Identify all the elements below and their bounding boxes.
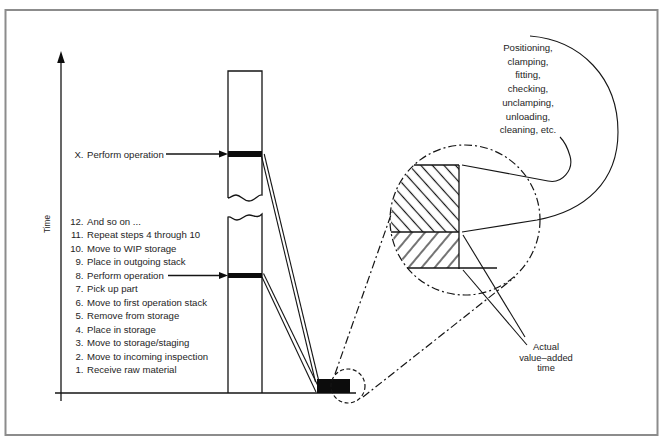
step-number: 11.	[71, 229, 84, 240]
step-label: Place in storage	[87, 324, 156, 335]
magnify-connector-upper	[335, 212, 392, 374]
value-added-line: Actual	[533, 341, 559, 352]
callout-line: checking,	[508, 83, 549, 94]
operation-x-number: X.	[74, 149, 83, 160]
value-added-label: Actual value–added time	[519, 341, 573, 373]
operation-x-arrowhead-icon	[219, 151, 228, 158]
step-label: Move to storage/staging	[87, 337, 189, 348]
value-added-leader-bottom	[463, 270, 527, 345]
step-list: 12. And so on ... 11. Repeat steps 4 thr…	[70, 216, 208, 376]
step-label: And so on ...	[87, 216, 141, 227]
step-label: Move to first operation stack	[87, 297, 207, 308]
step-number: 1.	[75, 364, 83, 375]
operation-x-band	[228, 151, 262, 157]
step-number: 6.	[75, 297, 83, 308]
callout-line: unclamping,	[502, 97, 554, 108]
step-label: Move to WIP storage	[87, 243, 176, 254]
step-label: Place in outgoing stack	[87, 256, 186, 267]
step-number: 5.	[75, 310, 83, 321]
hatch-value-added	[380, 232, 459, 268]
step-number: 10.	[70, 243, 83, 254]
operation-x-label: Perform operation	[87, 149, 164, 160]
value-added-block	[317, 379, 350, 393]
hatch-non-value-added	[380, 165, 459, 232]
step-label: Repeat steps 4 through 10	[87, 229, 200, 240]
step-number: 4.	[75, 324, 83, 335]
step-number: 9.	[75, 256, 83, 267]
step-number: 12.	[70, 216, 83, 227]
magnified-detail	[380, 145, 540, 295]
step-number: 3.	[75, 337, 83, 348]
non-value-added-callout: Positioning, clamping, fitting, checking…	[500, 42, 557, 136]
operation-8-band	[228, 273, 262, 278]
process-column-lower	[228, 214, 262, 393]
callout-line: unloading,	[506, 111, 550, 122]
operation-8-projection	[262, 274, 319, 393]
step-label: Remove from storage	[87, 310, 179, 321]
callout-line: clamping,	[507, 56, 548, 67]
time-value-added-diagram: Time X. Perform operation 12. And so on …	[0, 0, 662, 438]
time-axis-arrowhead-icon	[57, 51, 65, 63]
step-label: Perform operation	[87, 270, 164, 281]
value-added-leader-top	[463, 235, 525, 337]
step-number: 8.	[75, 270, 83, 281]
process-column-upper	[228, 71, 262, 201]
callout-line: cleaning, etc.	[500, 124, 557, 135]
magnify-connector-lower	[363, 277, 515, 397]
callout-line: Positioning,	[503, 42, 553, 53]
callout-leader-hook	[462, 137, 571, 181]
step-number: 2.	[75, 351, 83, 362]
value-added-line: value–added	[519, 352, 573, 363]
value-added-line: time	[537, 362, 555, 373]
callout-line: fitting,	[515, 69, 541, 80]
step-number: 7.	[75, 283, 83, 294]
step-label: Move to incoming inspection	[87, 351, 208, 362]
step-label: Pick up part	[87, 283, 138, 294]
step-label: Receive raw material	[87, 364, 177, 375]
operation-8-arrowhead-icon	[219, 272, 228, 279]
operation-x-projection	[261, 154, 319, 382]
time-axis-label: Time	[43, 215, 52, 233]
